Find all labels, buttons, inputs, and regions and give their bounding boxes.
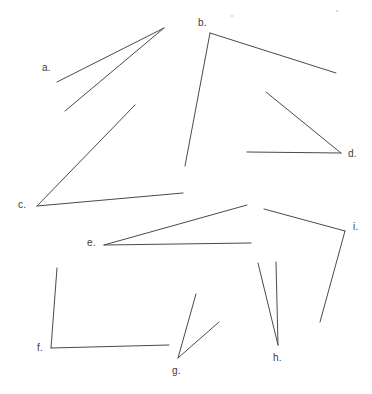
angle-c-ray-2 (37, 193, 183, 206)
angle-label-a: a. (42, 63, 51, 73)
angle-label-c: c. (18, 200, 26, 210)
angle-lines-canvas (0, 0, 372, 394)
angle-f (51, 268, 169, 348)
speck-2 (336, 10, 338, 12)
angle-i-ray-1 (264, 209, 345, 231)
angle-label-e: e. (87, 238, 96, 248)
angle-c (37, 105, 183, 206)
speck-1 (231, 15, 233, 17)
angle-d-ray-1 (266, 92, 341, 153)
angle-label-g: g. (172, 366, 181, 376)
angle-label-b: b. (198, 18, 207, 28)
angle-g-ray-2 (178, 322, 219, 358)
angle-h-ray-1 (258, 263, 278, 345)
angle-label-h: h. (273, 353, 282, 363)
angle-label-f: f. (37, 343, 43, 353)
angle-e (104, 205, 251, 245)
angle-c-ray-1 (37, 105, 135, 206)
angle-a-ray-2 (65, 28, 164, 111)
angle-g-ray-1 (178, 294, 196, 358)
angle-f-ray-1 (51, 268, 57, 348)
angle-e-ray-1 (104, 205, 247, 245)
angle-e-ray-2 (104, 243, 251, 245)
angle-g (178, 294, 219, 358)
angle-d-ray-2 (247, 152, 341, 153)
angle-label-i: i. (353, 222, 358, 232)
angles-figure: a.b.c.d.e.f.g.h.i. (0, 0, 372, 394)
angle-a-ray-1 (57, 28, 164, 82)
angle-f-ray-2 (51, 345, 169, 348)
angle-label-d: d. (348, 149, 357, 159)
angle-i-ray-2 (320, 231, 345, 322)
angle-h-ray-2 (276, 262, 278, 345)
angle-h (258, 262, 278, 345)
angle-b (185, 33, 336, 166)
angle-a (57, 28, 164, 111)
angle-b-ray-1 (210, 33, 336, 73)
angle-d (247, 92, 341, 153)
angle-b-ray-2 (185, 33, 210, 166)
